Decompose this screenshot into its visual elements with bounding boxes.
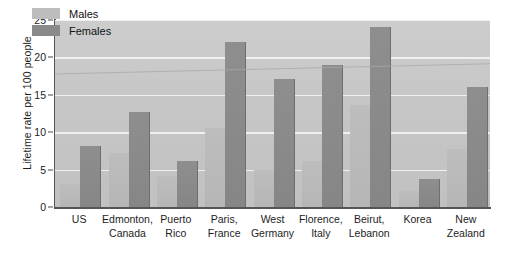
legend: Males Females <box>32 6 111 40</box>
y-tick-mark <box>48 94 53 95</box>
legend-item-females: Females <box>32 23 111 38</box>
bar-males <box>60 184 81 207</box>
bar-females <box>467 87 488 207</box>
x-tick-label-line: Lebanon <box>338 227 400 241</box>
x-tick-label-line: Zealand <box>435 227 497 241</box>
y-tick-label: 0 <box>40 201 46 213</box>
legend-label-females: Females <box>69 25 111 37</box>
bar-chart: Lifetime rate per 100 people 0510152025 … <box>0 0 510 253</box>
bar-females <box>370 27 391 207</box>
legend-label-males: Males <box>69 8 98 20</box>
bar-males <box>109 153 130 207</box>
legend-swatch-females-icon <box>32 25 60 36</box>
y-tick-mark <box>48 169 53 170</box>
gridline <box>55 132 490 133</box>
y-tick-mark <box>48 57 53 58</box>
gridline <box>55 57 490 58</box>
x-tick-label-line: New <box>435 213 497 227</box>
plot-area <box>55 20 490 207</box>
gridline <box>55 20 490 21</box>
bar-females <box>419 179 440 207</box>
x-tick-label: NewZealand <box>435 213 497 240</box>
bar-females <box>225 42 246 207</box>
legend-swatch-males-icon <box>32 8 60 19</box>
bar-males <box>350 105 371 207</box>
bar-females <box>177 161 198 207</box>
x-axis-tick-labels: USEdmonton,CanadaPuertoRicoParis,FranceW… <box>55 213 490 253</box>
y-tick-label: 5 <box>40 164 46 176</box>
gridline <box>55 95 490 96</box>
y-tick-label: 20 <box>34 51 46 63</box>
bar-females <box>129 112 150 207</box>
bar-females <box>80 146 101 207</box>
bar-males <box>399 191 420 207</box>
bar-males <box>157 176 178 207</box>
bar-males <box>205 128 226 207</box>
y-tick-mark <box>48 132 53 133</box>
bar-males <box>447 149 468 207</box>
legend-item-males: Males <box>32 6 111 21</box>
bar-females <box>274 79 295 207</box>
y-tick-label: 15 <box>34 89 46 101</box>
x-axis-line <box>54 207 491 209</box>
bar-females <box>322 65 343 207</box>
scan-artifact-line <box>55 61 490 76</box>
bar-males <box>302 161 323 207</box>
y-tick-label: 10 <box>34 126 46 138</box>
bar-males <box>254 170 275 207</box>
y-tick-mark <box>48 207 53 208</box>
